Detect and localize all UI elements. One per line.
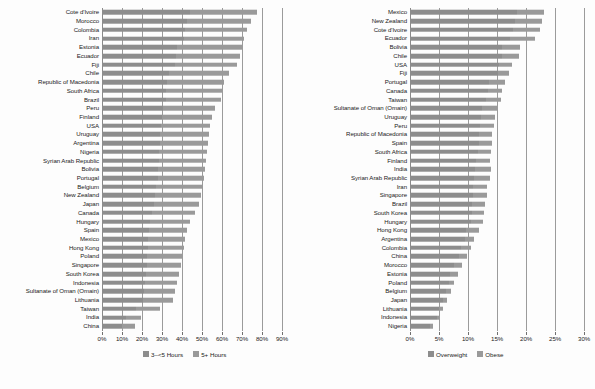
bar-segment (155, 193, 201, 198)
category-label: Ecuador (2, 53, 102, 59)
bar-segment (475, 167, 491, 172)
category-label: Japan (2, 201, 102, 207)
category-label: South Korea (2, 271, 102, 277)
x-axis-right: 0%5%10%15%20%25%30% (410, 332, 590, 346)
bar-row: Japan (302, 296, 590, 305)
stacked-bar (102, 245, 184, 250)
stacked-bar (410, 36, 535, 41)
bar-row: Indonesia (302, 313, 590, 322)
category-label: South Korea (302, 210, 410, 216)
stacked-bar (102, 106, 215, 111)
bar-segment (486, 97, 501, 102)
category-label: Chile (302, 53, 410, 59)
bar-track (410, 113, 590, 122)
bar-row: Poland (2, 252, 292, 261)
bar-segment (471, 219, 483, 224)
bar-row: Spain (2, 226, 292, 235)
bar-row: Estonia (2, 43, 292, 52)
stacked-bar (410, 141, 492, 146)
bar-row: Brazil (2, 95, 292, 104)
category-label: Syrian Arab Republic (2, 158, 102, 164)
stacked-bar (410, 211, 484, 216)
bar-row: Uruguay (302, 113, 590, 122)
bar-track (102, 270, 292, 279)
category-label: Spain (2, 227, 102, 233)
category-label: Finland (302, 158, 410, 164)
x-tick-label: 5% (435, 335, 444, 342)
bar-segment (430, 324, 433, 329)
bar-track (102, 191, 292, 200)
bar-segment (410, 28, 513, 33)
stacked-bar (410, 97, 501, 102)
category-label: Belgium (2, 184, 102, 190)
bar-track (410, 156, 590, 165)
bar-track (410, 86, 590, 95)
bar-row: Nigeria (2, 148, 292, 157)
category-label: Japan (302, 297, 410, 303)
bar-row: Syrian Arab Republic (302, 174, 590, 183)
bar-track (410, 69, 590, 78)
bar-segment (102, 54, 176, 59)
stacked-bar (410, 184, 487, 189)
plot-area-right: MexicoNew ZealandCote d'IvoireEcuadorBol… (302, 8, 590, 331)
stacked-bar (102, 254, 182, 259)
bar-segment (472, 211, 485, 216)
category-label: Portugal (302, 79, 410, 85)
bar-track (102, 174, 292, 183)
stacked-bar (410, 45, 520, 50)
legend-swatch-icon (193, 351, 199, 357)
bar-segment (489, 80, 505, 85)
bar-segment (410, 71, 498, 76)
bar-segment (479, 132, 492, 137)
bar-segment (144, 289, 175, 294)
category-label: Singapore (302, 192, 410, 198)
bar-row: Cote d'Ivoire (302, 25, 590, 34)
bar-segment (102, 10, 190, 15)
legend-label: Obese (485, 351, 503, 358)
category-label: Colombia (2, 27, 102, 33)
legend-item[interactable]: 5+ Hours (193, 351, 226, 358)
bar-row: Mexico (2, 235, 292, 244)
bar-row: Syrian Arab Republic (2, 156, 292, 165)
category-label: Morocco (302, 262, 410, 268)
stacked-bar (410, 132, 492, 137)
bar-segment (410, 245, 461, 250)
bar-row: New Zealand (302, 17, 590, 26)
bar-row: Ecuador (302, 34, 590, 43)
bar-segment (102, 254, 147, 259)
bar-track (102, 34, 292, 43)
legend-item[interactable]: Obese (477, 351, 503, 358)
legend-item[interactable]: Overweight (428, 351, 467, 358)
bar-segment (410, 89, 488, 94)
bar-track (102, 25, 292, 34)
bar-row: Bolivia (2, 165, 292, 174)
legend-swatch-icon (477, 351, 483, 357)
category-label: Cote d'Ivoire (2, 9, 102, 15)
bar-track (410, 78, 590, 87)
legend-item[interactable]: 3–<5 Hours (143, 351, 183, 358)
category-label: Chile (2, 70, 102, 76)
bar-track (102, 304, 292, 313)
category-label: Poland (302, 280, 410, 286)
bar-row: New Zealand (2, 191, 292, 200)
bar-segment (410, 167, 475, 172)
x-tick-label: 60% (216, 335, 228, 342)
bar-row: Colombia (302, 243, 590, 252)
category-label: Singapore (2, 262, 102, 268)
bar-track (410, 60, 590, 69)
bar-segment (102, 45, 177, 50)
bar-segment (502, 54, 519, 59)
bar-segment (145, 280, 177, 285)
bar-segment (450, 272, 458, 277)
bar-row: South Korea (2, 270, 292, 279)
bar-segment (481, 115, 495, 120)
category-label: China (302, 253, 410, 259)
bar-segment (510, 36, 535, 41)
legend-swatch-icon (143, 351, 149, 357)
bar-track (410, 243, 590, 252)
bar-segment (410, 150, 478, 155)
bar-row: Mexico (302, 8, 590, 17)
stacked-bar (410, 167, 491, 172)
stacked-bar (102, 97, 221, 102)
x-tick-label: 0% (98, 335, 107, 342)
